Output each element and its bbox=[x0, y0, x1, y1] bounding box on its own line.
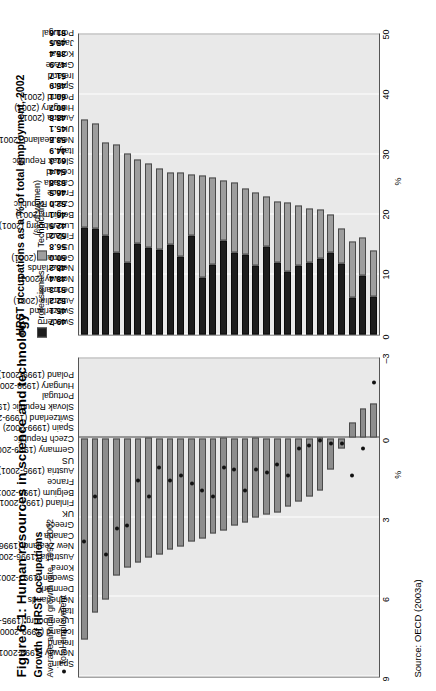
rotated-page-wrapper: Figure 6.1: Human resources in science a… bbox=[0, 0, 436, 691]
bar-technicians bbox=[274, 201, 281, 262]
category-label: Iceland (1999-2000) bbox=[0, 626, 74, 636]
share-chart-plot bbox=[78, 33, 380, 335]
marker-total-employment bbox=[318, 438, 322, 442]
legend-label: Technicians bbox=[36, 200, 46, 247]
category-label: Germany (1999-2002) bbox=[0, 444, 74, 454]
bar-technicians bbox=[242, 188, 249, 254]
bar-growth-hrst bbox=[188, 438, 195, 541]
bar-growth-hrst bbox=[156, 438, 163, 555]
pct-women-value: 48.2 bbox=[49, 262, 66, 272]
bar-technicians bbox=[167, 172, 174, 244]
bar-technicians bbox=[252, 192, 259, 265]
bar-technicians bbox=[306, 208, 313, 262]
legend-swatch-professionals bbox=[37, 327, 47, 337]
bar-professionals bbox=[134, 243, 141, 334]
legend-swatch-technicians bbox=[37, 250, 47, 260]
bar-professionals bbox=[349, 297, 356, 334]
pct-women-value: 46.5 bbox=[49, 187, 66, 197]
bar-growth-hrst bbox=[349, 422, 356, 438]
category-label: Ireland bbox=[48, 637, 74, 647]
category-label: Slovak Republic (1999-2002) bbox=[0, 401, 74, 411]
pct-women-value: 49.7 bbox=[49, 316, 66, 326]
pct-women-value: 45.5 bbox=[49, 37, 66, 47]
axis-tick: 0 bbox=[381, 437, 391, 442]
pct-women-value: 45.1 bbox=[49, 305, 66, 315]
category-label: Denmark bbox=[39, 583, 74, 593]
marker-total-employment bbox=[125, 523, 129, 527]
bar-technicians bbox=[177, 172, 184, 256]
bar-growth-hrst bbox=[92, 438, 99, 613]
marker-total-employment bbox=[275, 462, 279, 466]
category-label: UK bbox=[62, 508, 74, 518]
marker-total-employment bbox=[297, 446, 301, 450]
gridline bbox=[79, 33, 379, 34]
pct-women-value: 51.6 bbox=[49, 27, 66, 37]
marker-total-employment bbox=[340, 441, 344, 445]
right-panel-legend: ProfessionalsTechnicians bbox=[30, 190, 48, 337]
bar-growth-hrst bbox=[102, 438, 109, 600]
axis-label-percent: % bbox=[393, 177, 403, 185]
figure-page: Figure 6.1: Human resources in science a… bbox=[0, 0, 436, 691]
marker-total-employment bbox=[222, 465, 226, 469]
category-label: Italy bbox=[58, 605, 74, 615]
pct-women-value: 46.1 bbox=[49, 209, 66, 219]
bar-technicians bbox=[338, 228, 345, 263]
bar-professionals bbox=[124, 262, 131, 334]
bar-professionals bbox=[145, 247, 152, 334]
bar-technicians bbox=[188, 174, 195, 235]
bar-technicians bbox=[81, 119, 88, 227]
axis-tick: 3 bbox=[381, 517, 391, 522]
category-label: Norway (1999-2001) bbox=[0, 648, 74, 658]
category-label: Belgium (1995-2001) bbox=[0, 487, 74, 497]
bar-technicians bbox=[199, 175, 206, 277]
axis-tick: 9 bbox=[381, 676, 391, 681]
bar-technicians bbox=[102, 142, 109, 235]
marker-total-employment bbox=[361, 446, 365, 450]
axis-tick: 6 bbox=[381, 596, 391, 601]
bar-technicians bbox=[134, 159, 141, 243]
bar-growth-hrst bbox=[285, 438, 292, 507]
bar-technicians bbox=[370, 250, 377, 296]
bar-growth-hrst bbox=[231, 438, 238, 525]
category-label: Portugal bbox=[42, 390, 74, 400]
marker-total-employment bbox=[93, 494, 97, 498]
bar-professionals bbox=[177, 256, 184, 334]
bar-technicians bbox=[359, 237, 366, 275]
bar-growth-hrst bbox=[113, 438, 120, 576]
category-label: Poland (1999-2001) bbox=[0, 369, 74, 379]
marker-total-employment bbox=[147, 494, 151, 498]
pct-women-value: 51.7 bbox=[49, 70, 66, 80]
bar-professionals bbox=[327, 252, 334, 334]
bar-professionals bbox=[102, 235, 109, 334]
marker-total-employment bbox=[286, 473, 290, 477]
bar-professionals bbox=[370, 296, 377, 334]
bar-technicians bbox=[263, 196, 270, 246]
pct-women-value: 35.4 bbox=[49, 48, 66, 58]
category-label: Hungary (1999-2001) bbox=[0, 380, 74, 390]
bar-growth-hrst bbox=[135, 438, 142, 563]
marker-total-employment bbox=[136, 478, 140, 482]
bar-professionals bbox=[81, 227, 88, 334]
marker-total-employment bbox=[179, 473, 183, 477]
pct-women-value: 45.9 bbox=[49, 80, 66, 90]
marker-total-employment bbox=[168, 478, 172, 482]
category-label: New Zealand (1996-2001) bbox=[0, 540, 74, 550]
bar-growth-hrst bbox=[177, 438, 184, 547]
bar-professionals bbox=[295, 265, 302, 334]
bar-professionals bbox=[188, 235, 195, 334]
category-label: Australia (1996-2001) bbox=[0, 551, 74, 561]
bar-professionals bbox=[167, 244, 174, 334]
gridline bbox=[79, 596, 379, 597]
bar-professionals bbox=[317, 258, 324, 334]
category-label: Spain bbox=[52, 658, 74, 668]
bar-professionals bbox=[220, 240, 227, 334]
marker-total-employment bbox=[372, 380, 376, 384]
bar-professionals bbox=[231, 252, 238, 334]
bar-technicians bbox=[349, 241, 356, 297]
category-label: Czech Republic bbox=[14, 433, 74, 443]
bar-growth-hrst bbox=[199, 438, 206, 539]
axis-tick: 10 bbox=[381, 269, 391, 279]
legend-dot-icon bbox=[62, 669, 66, 673]
bar-professionals bbox=[284, 271, 291, 334]
axis-label-percent: % bbox=[393, 470, 403, 478]
